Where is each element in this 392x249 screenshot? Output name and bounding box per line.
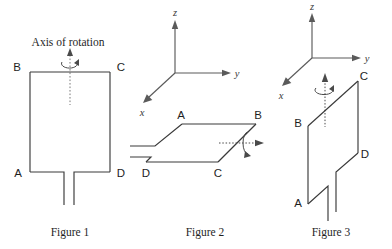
loop-lead-left-fig1 [30,172,64,205]
rotation-axis-arrowhead-fig2 [255,140,264,146]
figure-2-diagram: z y x A B C D [130,0,280,226]
axis-z-label-fig3: z [309,1,314,12]
axis-x-label-fig2: x [139,107,145,118]
vertex-label-a-fig1: A [14,167,22,179]
loop-lead-left-fig3 [308,186,328,221]
vertex-label-b-fig3: B [294,117,302,129]
axis-y-arrowhead-fig3 [352,55,361,61]
vertex-label-c-fig2: C [214,167,222,179]
rotation-axis-arrowhead-fig1 [67,48,73,56]
figure-board: Axis of rotation B C A D Figure 1 z y x [0,0,392,249]
figure-1-caption: Figure 1 [0,226,140,238]
vertex-label-a-fig2: A [177,109,185,121]
vertex-label-b-fig2: B [254,109,262,121]
loop-lead-right-fig1 [74,172,110,205]
vertex-label-c-fig3: C [360,70,368,82]
axis-x-line-fig2 [149,73,175,97]
vertex-label-d-fig1: D [117,167,125,179]
vertex-label-a-fig3: A [294,197,302,209]
vertex-label-d-fig2: D [142,167,150,179]
figure-2-caption: Figure 2 [130,226,280,238]
figure-3-caption: Figure 3 [270,226,392,238]
rotation-curve-arrowhead-fig1 [74,59,79,66]
axis-x-label-fig3: x [278,90,284,101]
axis-y-label-fig3: y [364,53,370,64]
loop-lead-lower-fig2 [130,157,151,162]
figure-3-diagram: z y x C B D A [270,0,392,226]
axis-y-arrowhead-fig2 [222,70,231,76]
axis-x-line-fig3 [288,58,312,80]
loop-lead-right-fig3 [336,153,358,212]
vertex-label-c-fig1: C [117,61,125,73]
axis-y-label-fig2: y [234,68,240,79]
loop-lead-upper-fig2 [130,124,182,146]
axis-z-arrowhead-fig2 [172,20,178,29]
rotation-axis-arrowhead-fig3 [322,73,328,82]
vertex-label-d-fig3: D [361,148,369,160]
rotation-curve-arrowhead-fig3 [329,85,334,92]
axis-z-arrowhead-fig3 [309,13,315,22]
figure-1-diagram: B C A D [0,0,140,226]
vertex-label-b-fig1: B [13,61,21,73]
axis-z-label-fig2: z [172,7,177,18]
rotation-curve-arrowhead-fig2 [244,151,251,158]
